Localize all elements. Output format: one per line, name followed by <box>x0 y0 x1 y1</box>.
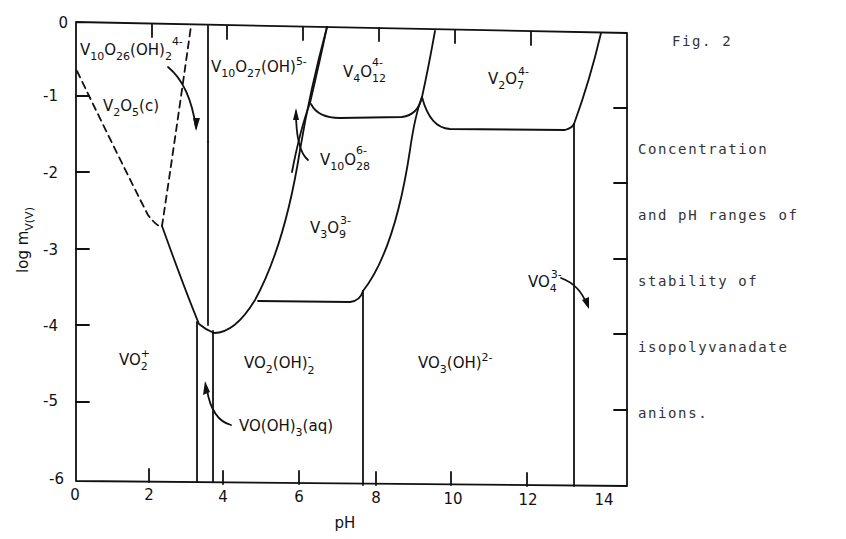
boundary-v3o9-floor <box>258 291 363 302</box>
plot-frame <box>76 22 627 486</box>
arrowhead-vo4 <box>582 297 589 309</box>
label-vo2oh2: VO2(OH)2- <box>244 350 315 377</box>
boundary-v4o12-floor <box>311 97 422 118</box>
caption-line: Concentration <box>638 138 798 160</box>
x-tick-0: 0 <box>70 486 80 504</box>
label-vo3oh: VO3(OH)2- <box>418 351 493 376</box>
label-vo4: VO43- <box>528 268 562 295</box>
label-v10o27oh: V10O27(OH)5- <box>211 55 307 80</box>
x-tick-14: 14 <box>594 491 613 509</box>
caption-line: and pH ranges of <box>638 204 798 226</box>
label-v4o12: V4O124- <box>343 56 386 85</box>
boundary-v2o7-right <box>574 33 601 124</box>
boundary-v3o9-right <box>363 31 435 291</box>
arrowhead-v10o28 <box>293 108 299 120</box>
figure-label: Fig. 2 <box>672 30 732 52</box>
svg-text:log mV(V): log mV(V) <box>14 207 36 273</box>
boundary-v2o5-dashed-left <box>77 71 162 226</box>
y-axis-title: log mV(V) <box>14 207 36 273</box>
caption-line: stability of <box>638 270 798 292</box>
arrowhead-vooh3 <box>203 381 210 395</box>
arrow-v10o26 <box>168 67 196 128</box>
y-ticks-right <box>614 108 627 410</box>
x-tick-8: 8 <box>371 489 381 507</box>
y-tick-0: 0 <box>58 14 68 32</box>
x-tick-6: 6 <box>294 488 304 506</box>
y-tick-3: -3 <box>43 241 58 259</box>
label-v2o7: V2O74- <box>488 65 529 92</box>
y-tick-4: -4 <box>43 317 58 335</box>
x-tick-12: 12 <box>518 491 537 509</box>
y-tick-1: -1 <box>43 87 58 105</box>
x-tick-4: 4 <box>218 488 228 506</box>
label-v10o28: V10O286- <box>320 144 370 173</box>
label-vo2-plus: VO2+ <box>119 347 150 373</box>
caption-line: anions. <box>638 402 798 424</box>
boundary-solubility-left <box>162 226 214 333</box>
boundary-v2o7-floor <box>422 97 574 130</box>
y-tick-5: -5 <box>43 392 58 410</box>
arrowhead-v10o26 <box>193 118 200 131</box>
label-v2o5c: V2O5(c) <box>103 97 159 119</box>
x-axis-title: pH <box>335 514 356 532</box>
label-v3o9: V3O93- <box>310 214 351 241</box>
x-tick-10: 10 <box>443 490 462 508</box>
caption-line: isopolyvanadate <box>638 336 798 358</box>
arrow-vooh3 <box>207 390 231 425</box>
figure-caption: Concentration and pH ranges of stability… <box>638 94 798 446</box>
y-tick-6: -6 <box>49 470 64 488</box>
label-vooh3-aq: VO(OH)3(aq) <box>239 417 333 439</box>
label-v10o26oh2: V10O26(OH)24- <box>80 35 183 63</box>
x-tick-2: 2 <box>144 486 154 504</box>
y-tick-2: -2 <box>43 164 58 182</box>
y-ticks-left <box>76 96 89 402</box>
